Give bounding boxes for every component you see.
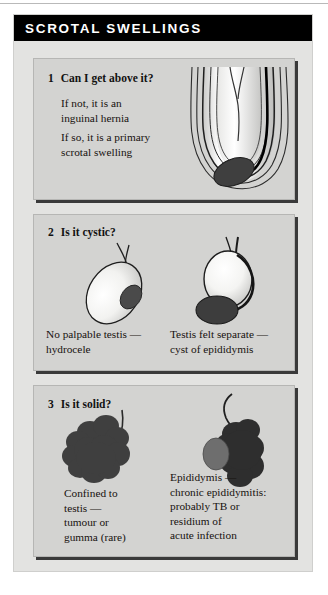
panel-1-line-2: If so, it is a primary scrotal swelling (61, 130, 150, 159)
question-1-heading: 1Can I get above it? (48, 72, 153, 84)
top-divider-rule (0, 3, 328, 4)
panel-2-caption-left: No palpable testis — hydrocele (46, 327, 166, 356)
cyst-above-separate-testis-illustration (184, 235, 284, 330)
panel-3-caption-left: Confined to testis — tumour or gumma (ra… (64, 486, 174, 544)
panel-1-line-1: If not, it is an inguinal hernia (61, 96, 129, 125)
panel-question-1: 1Can I get above it? If not, it is an in… (33, 58, 295, 200)
card-title-bar: SCROTAL SWELLINGS (14, 15, 312, 41)
page-title: SCROTAL SWELLINGS (14, 21, 202, 36)
question-3-number: 3 (48, 398, 54, 410)
question-2-number: 2 (48, 226, 54, 238)
panel-3-caption-right: Epididymis — chronic epididymitis: proba… (170, 470, 295, 543)
solid-lumpy-testis-mass-illustration (56, 408, 166, 490)
question-1-text: Can I get above it? (61, 72, 154, 84)
question-2-text: Is it cystic? (61, 226, 116, 238)
panel-2-caption-right: Testis felt separate — cyst of epididymi… (170, 327, 295, 356)
panel-question-3: 3Is it solid? (33, 385, 295, 557)
question-1-number: 1 (48, 72, 54, 84)
hydrocele-oval-with-testis-illustration (69, 241, 169, 329)
scrotal-swellings-card: SCROTAL SWELLINGS 1Can I get above it? I… (13, 14, 313, 572)
scrotum-layers-with-testis-illustration (182, 65, 292, 199)
panel-question-2: 2Is it cystic? (33, 214, 295, 371)
question-2-heading: 2Is it cystic? (48, 226, 116, 238)
